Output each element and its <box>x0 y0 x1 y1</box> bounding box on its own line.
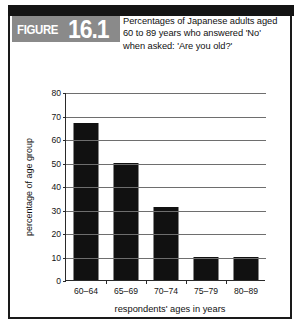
bar <box>114 163 139 281</box>
y-tick-mark <box>63 93 66 94</box>
figure-label-text: FIGURE <box>17 22 58 37</box>
y-tick-mark <box>63 258 66 259</box>
figure-title-line-3: when asked: 'Are you old?' <box>123 40 288 52</box>
figure-title-line-2: 60 to 89 years who answered 'No' <box>123 27 288 39</box>
x-tick-mark <box>146 280 147 284</box>
x-tick-mark <box>186 280 187 284</box>
y-tick-label: 80 <box>51 88 61 98</box>
bar <box>154 207 179 280</box>
bar <box>194 257 219 281</box>
y-tick-mark <box>63 234 66 235</box>
bar-group <box>186 92 226 280</box>
figure-title-line-1: Percentages of Japanese adults aged <box>123 15 288 27</box>
bar <box>74 123 99 280</box>
bar-group <box>226 92 266 280</box>
x-tick-label: 70–74 <box>154 286 178 296</box>
bar-series <box>66 92 266 280</box>
y-tick-label: 20 <box>51 229 61 239</box>
y-tick-mark <box>63 187 66 188</box>
y-gridline <box>66 164 266 165</box>
x-axis-title: respondents' ages in years <box>65 304 275 314</box>
y-tick-mark <box>63 281 66 282</box>
bar <box>234 257 259 281</box>
figure-title: Percentages of Japanese adults aged 60 t… <box>123 15 288 52</box>
y-gridline <box>66 117 266 118</box>
y-tick-label: 40 <box>51 182 61 192</box>
figure-number-badge: FIGURE 16.1 <box>12 16 120 42</box>
y-gridline <box>66 211 266 212</box>
figure-number-text: 16.1 <box>68 17 108 41</box>
y-gridline <box>66 187 266 188</box>
y-tick-label: 60 <box>51 135 61 145</box>
y-tick-mark <box>63 164 66 165</box>
y-tick-mark <box>63 140 66 141</box>
y-tick-label: 30 <box>51 206 61 216</box>
bar-group <box>146 92 186 280</box>
y-tick-label: 70 <box>51 112 61 122</box>
y-tick-label: 10 <box>51 253 61 263</box>
x-tick-label: 80–89 <box>234 286 258 296</box>
bar-group <box>66 92 106 280</box>
y-tick-mark <box>63 117 66 118</box>
y-gridline <box>66 234 266 235</box>
x-tick-label: 65–69 <box>114 286 138 296</box>
y-gridline <box>66 93 266 94</box>
y-tick-mark <box>63 211 66 212</box>
x-tick-mark <box>226 280 227 284</box>
bar-group <box>106 92 146 280</box>
figure-card: FIGURE 16.1 Percentages of Japanese adul… <box>8 7 292 319</box>
y-tick-label: 50 <box>51 159 61 169</box>
y-gridline <box>66 140 266 141</box>
y-gridline <box>66 258 266 259</box>
y-tick-label: 0 <box>56 276 61 286</box>
chart-plot-area: 0102030405060708060–6465–6970–7475–7980–… <box>65 93 265 281</box>
y-axis-title: percentage of age group <box>24 93 38 281</box>
x-tick-label: 75–79 <box>194 286 218 296</box>
x-tick-label: 60–64 <box>74 286 98 296</box>
x-tick-mark <box>106 280 107 284</box>
